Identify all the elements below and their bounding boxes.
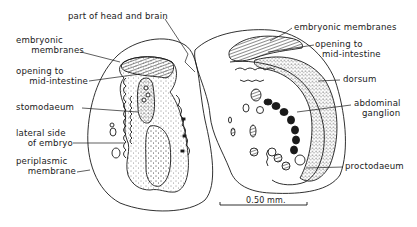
left-yolk-sac bbox=[146, 126, 171, 187]
embryo-section-diagram: part of head and brain embryonic membran… bbox=[0, 0, 417, 227]
right-abdominal-ganglion bbox=[264, 99, 300, 154]
label-line: ganglion bbox=[354, 109, 401, 119]
label-line: mid-intestine bbox=[314, 50, 381, 60]
label-left-opening-to-mid-intestine: opening to mid-intestine bbox=[10, 67, 88, 86]
label-lateral-side-of-embryo: lateral side of embryo bbox=[10, 129, 73, 148]
label-line: of embryo bbox=[10, 139, 73, 149]
label-proctodaeum: proctodaeum bbox=[345, 162, 404, 172]
label-periplasmic-membrane: periplasmic membrane bbox=[10, 157, 76, 176]
label-dorsum: dorsum bbox=[343, 75, 376, 85]
label-part-of-head-and-brain: part of head and brain bbox=[68, 12, 168, 22]
label-stomodaeum: stomodaeum bbox=[16, 103, 74, 113]
label-left-embryonic-membranes: embryonic membranes bbox=[10, 36, 84, 55]
label-abdominal-ganglion: abdominal ganglion bbox=[354, 99, 401, 118]
label-right-embryonic-membranes: embryonic membranes bbox=[294, 23, 397, 33]
label-line: membrane bbox=[10, 167, 76, 177]
label-right-opening-to-mid-intestine: opening to mid-intestine bbox=[314, 40, 381, 59]
label-line: membranes bbox=[10, 46, 84, 56]
scale-bar-label: 0.50 mm. bbox=[246, 196, 286, 206]
label-line: mid-intestine bbox=[10, 77, 88, 87]
left-section bbox=[88, 39, 213, 211]
